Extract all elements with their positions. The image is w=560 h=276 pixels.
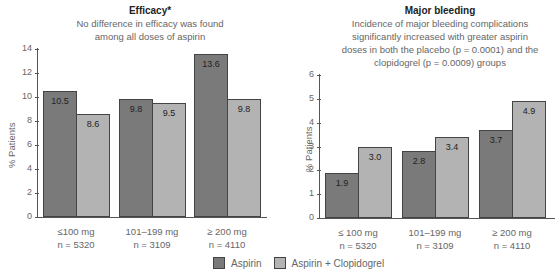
y-tick-label: 12 bbox=[18, 67, 32, 77]
y-tick-label: 6 bbox=[18, 139, 32, 149]
efficacy-y-label: % Patients bbox=[6, 123, 17, 168]
bar-value-label: 1.9 bbox=[326, 178, 358, 188]
y-tick-label: 4 bbox=[18, 163, 32, 173]
legend-swatch-aspirin bbox=[213, 257, 225, 269]
bar-value-label: 9.5 bbox=[153, 108, 185, 118]
bleeding-subtitle-4: clopidogrel (p = 0.0009) groups bbox=[315, 56, 560, 69]
y-tick-label: 14 bbox=[18, 43, 32, 53]
y-tick-mark bbox=[317, 218, 321, 219]
bleeding-x-axis bbox=[319, 218, 555, 219]
legend: Aspirin Aspirin + Clopidogrel bbox=[213, 257, 384, 269]
y-tick-mark bbox=[35, 121, 39, 122]
efficacy-title: Efficacy* bbox=[40, 5, 260, 16]
y-tick-mark bbox=[317, 123, 321, 124]
bleeding-title: Major bleeding bbox=[320, 5, 560, 16]
bar-value-label: 2.8 bbox=[403, 156, 435, 166]
y-tick-label: 0 bbox=[300, 212, 314, 222]
y-tick-mark bbox=[35, 73, 39, 74]
y-tick-label: 1 bbox=[300, 188, 314, 198]
bar-value-label: 3.7 bbox=[480, 135, 512, 145]
y-tick-mark bbox=[317, 99, 321, 100]
bar-value-label: 9.8 bbox=[228, 104, 260, 114]
y-tick-label: 3 bbox=[300, 141, 314, 151]
bar-value-label: 3.0 bbox=[359, 152, 391, 162]
y-tick-mark bbox=[317, 147, 321, 148]
bar-value-label: 3.4 bbox=[436, 142, 468, 152]
y-tick-label: 0 bbox=[18, 211, 32, 221]
bar-aspirin-clopidogrel: 8.6 bbox=[76, 114, 110, 217]
bar-aspirin: 9.8 bbox=[119, 99, 153, 217]
bar-aspirin-clopidogrel: 9.8 bbox=[227, 99, 261, 217]
category-label: ≥ 200 mgn = 4110 bbox=[467, 226, 557, 252]
efficacy-x-axis bbox=[37, 217, 267, 218]
category-n: n = 4110 bbox=[182, 238, 272, 251]
bar-aspirin: 10.5 bbox=[43, 91, 77, 217]
bar-aspirin: 1.9 bbox=[325, 173, 359, 218]
bar-aspirin-clopidogrel: 9.5 bbox=[152, 103, 186, 217]
y-tick-mark bbox=[317, 75, 321, 76]
efficacy-subtitle-1: No difference in efficacy was found bbox=[40, 17, 260, 30]
y-tick-mark bbox=[35, 217, 39, 218]
bleeding-subtitle-1: Incidence of major bleeding complication… bbox=[315, 17, 560, 30]
y-tick-mark bbox=[35, 169, 39, 170]
bar-aspirin: 13.6 bbox=[194, 54, 228, 217]
bleeding-subtitle-2: significantly increased with greater asp… bbox=[315, 30, 560, 43]
y-tick-label: 4 bbox=[300, 117, 314, 127]
bar-aspirin: 3.7 bbox=[479, 130, 513, 218]
y-tick-mark bbox=[35, 49, 39, 50]
y-tick-label: 2 bbox=[300, 164, 314, 174]
bar-value-label: 13.6 bbox=[195, 59, 227, 69]
bar-value-label: 4.9 bbox=[513, 106, 545, 116]
bar-aspirin-clopidogrel: 3.4 bbox=[435, 137, 469, 218]
y-tick-label: 2 bbox=[18, 187, 32, 197]
bar-aspirin-clopidogrel: 3.0 bbox=[358, 147, 392, 218]
bar-value-label: 8.6 bbox=[77, 119, 109, 129]
legend-label-combo: Aspirin + Clopidogrel bbox=[292, 258, 385, 269]
bar-aspirin-clopidogrel: 4.9 bbox=[512, 101, 546, 218]
category-label: ≥ 200 mgn = 4110 bbox=[182, 225, 272, 251]
y-tick-label: 10 bbox=[18, 91, 32, 101]
y-tick-mark bbox=[35, 97, 39, 98]
y-tick-label: 5 bbox=[300, 93, 314, 103]
y-tick-label: 6 bbox=[300, 69, 314, 79]
y-tick-mark bbox=[317, 170, 321, 171]
y-tick-mark bbox=[317, 194, 321, 195]
category-dose: ≥ 200 mg bbox=[182, 225, 272, 238]
bar-value-label: 10.5 bbox=[44, 96, 76, 106]
y-tick-label: 8 bbox=[18, 115, 32, 125]
bleeding-subtitle-3: doses in both the placebo (p = 0.0001) a… bbox=[315, 43, 560, 56]
legend-label-aspirin: Aspirin bbox=[231, 258, 262, 269]
bar-value-label: 9.8 bbox=[120, 104, 152, 114]
y-tick-mark bbox=[35, 193, 39, 194]
bar-aspirin: 2.8 bbox=[402, 151, 436, 218]
category-dose: ≥ 200 mg bbox=[467, 226, 557, 239]
legend-swatch-combo bbox=[274, 257, 286, 269]
category-n: n = 4110 bbox=[467, 239, 557, 252]
y-tick-mark bbox=[35, 145, 39, 146]
efficacy-subtitle-2: among all doses of aspirin bbox=[40, 30, 260, 43]
